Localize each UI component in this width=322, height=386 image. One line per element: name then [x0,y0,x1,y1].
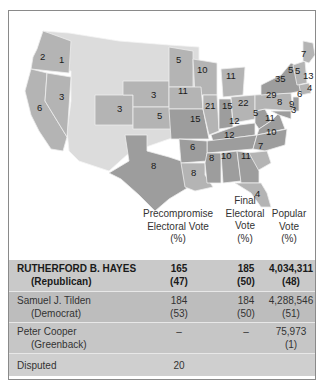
precompromise-cell: – [159,326,199,339]
header-popular: Popular Vote (%) [265,208,313,246]
svg-text:10: 10 [266,126,277,137]
value: – [231,326,261,339]
svg-text:35: 35 [275,73,286,84]
header-line: (%) [265,233,313,246]
svg-text:5: 5 [295,65,300,76]
svg-text:12: 12 [229,115,240,126]
table-row-disputed: Disputed 20 [9,354,315,376]
svg-text:6: 6 [190,141,195,152]
precompromise-cell: 165 (47) [159,263,199,288]
value: 184 [159,295,199,308]
svg-text:11: 11 [226,70,236,81]
svg-text:21: 21 [205,100,216,111]
value: – [159,326,199,339]
header-line: Vote [222,220,268,233]
svg-text:7: 7 [301,48,306,59]
svg-text:8: 8 [209,152,214,163]
party-label: (Greenback) [17,339,87,352]
us-electoral-map: 2 1 6 3 3 3 5 8 5 10 11 11 21 15 22 15 1… [9,11,315,211]
svg-text:6: 6 [297,88,302,99]
svg-text:15: 15 [190,113,201,124]
svg-text:6: 6 [37,102,42,113]
header-line: Vote [265,221,313,234]
table-row-tilden: Samuel J. Tilden (Democrat) 184 (53) 184… [9,292,315,323]
table-row-hayes: RUTHERFORD B. HAYES (Republican) 165 (47… [9,260,315,292]
svg-text:11: 11 [265,112,275,123]
svg-text:7: 7 [258,140,263,151]
state-kansas [133,107,171,129]
value: 184 [231,295,261,308]
header-line: (%) [135,233,221,246]
final-cell: 184 (50) [231,295,261,320]
candidate-label: RUTHERFORD B. HAYES [17,263,136,274]
value: 165 [159,263,199,276]
svg-text:8: 8 [277,96,282,107]
svg-text:8: 8 [191,167,196,178]
precompromise-cell: 20 [159,360,199,373]
svg-text:10: 10 [197,64,208,75]
percent: (51) [265,308,317,321]
header-line: Precompromise [135,208,221,221]
svg-text:8: 8 [151,160,156,171]
results-table: RUTHERFORD B. HAYES (Republican) 165 (47… [9,260,315,376]
svg-text:3: 3 [151,89,156,100]
svg-text:3: 3 [117,103,122,114]
svg-text:2: 2 [40,51,45,62]
svg-text:5: 5 [253,107,258,118]
party-label: (Republican) [17,276,136,289]
percent: (48) [265,276,317,289]
header-final: Final Electoral Vote (%) [222,195,268,245]
table-row-cooper: Peter Cooper (Greenback) – – 75,973 (1) [9,323,315,354]
state-colorado [95,95,133,125]
party-label: (Democrat) [17,308,91,321]
popular-cell: 75,973 (1) [265,326,317,351]
state-missouri [169,109,209,139]
svg-text:13: 13 [303,70,314,81]
popular-cell: 4,034,311 (48) [265,263,317,288]
svg-text:1: 1 [59,54,64,65]
header-line: Popular [265,208,313,221]
svg-text:9: 9 [289,98,294,109]
final-cell: 185 (50) [231,263,261,288]
svg-text:5: 5 [157,110,162,121]
percent: (47) [159,276,199,289]
row-label: Disputed [17,360,56,373]
value: 4,288,546 [265,295,317,308]
header-precompromise: Precompromise Electoral Vote (%) [135,208,221,246]
popular-cell: 4,288,546 (51) [265,295,317,320]
svg-text:5: 5 [288,64,293,75]
percent: (53) [159,308,199,321]
svg-text:4: 4 [307,82,312,93]
header-line: (%) [222,233,268,246]
final-cell: – [231,326,261,339]
svg-text:15: 15 [222,100,233,111]
header-line: Final [222,195,268,208]
value: 185 [231,263,261,276]
candidate-label: Samuel J. Tilden [17,295,91,306]
value: 75,973 [265,326,317,339]
svg-text:22: 22 [238,97,249,108]
svg-text:5: 5 [176,54,181,65]
svg-text:3: 3 [59,91,64,102]
svg-text:29: 29 [266,89,277,100]
value: 20 [159,360,199,373]
map-figure: 2 1 6 3 3 3 5 8 5 10 11 11 21 15 22 15 1… [8,10,316,380]
svg-text:11: 11 [241,150,251,161]
percent: (50) [231,276,261,289]
table-header: Precompromise Electoral Vote (%) Final E… [9,194,315,260]
percent: (50) [231,308,261,321]
candidate-name: Peter Cooper (Greenback) [17,326,87,351]
svg-text:11: 11 [178,85,188,96]
candidate-label: Peter Cooper [17,326,76,337]
disputed-label: Disputed [17,360,56,371]
svg-text:10: 10 [221,150,232,161]
svg-text:12: 12 [224,129,235,140]
state-minnesota [169,47,193,87]
candidate-name: RUTHERFORD B. HAYES (Republican) [17,263,136,288]
percent: (1) [265,339,317,352]
value: 4,034,311 [265,263,317,276]
header-line: Electoral [222,208,268,221]
precompromise-cell: 184 (53) [159,295,199,320]
candidate-name: Samuel J. Tilden (Democrat) [17,295,91,320]
header-line: Electoral Vote [135,221,221,234]
